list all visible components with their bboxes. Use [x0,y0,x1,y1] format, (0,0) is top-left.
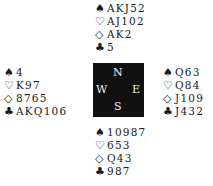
heart-icon: ♡ [95,15,107,28]
club-icon: ♣ [95,41,107,54]
north-spades: AKJ52 [107,2,146,15]
east-hearts: Q84 [175,79,201,92]
south-hand: ♠10987 ♡653 ◇Q43 ♣987 [95,126,146,178]
heart-icon: ♡ [163,79,175,92]
north-hand: ♠AKJ52 ♡AJ102 ◇AK2 ♣5 [95,2,146,54]
heart-icon: ♡ [95,139,107,152]
east-spades-row: ♠Q63 [163,66,204,79]
east-diamonds-row: ◇J109 [163,92,204,105]
club-icon: ♣ [163,105,175,118]
west-hand: ♠4 ♡K97 ◇8765 ♣AKQ106 [4,66,67,118]
east-spades: Q63 [175,66,201,79]
south-diamonds-row: ◇Q43 [95,152,146,165]
south-hearts: 653 [107,139,131,152]
south-diamonds: Q43 [107,152,133,165]
west-diamonds-row: ◇8765 [4,92,67,105]
spade-icon: ♠ [95,126,107,139]
north-hearts: AJ102 [107,15,145,28]
spade-icon: ♠ [163,66,175,79]
compass-west-label: W [96,83,107,96]
heart-icon: ♡ [4,79,16,92]
south-clubs-row: ♣987 [95,165,146,178]
east-hearts-row: ♡Q84 [163,79,204,92]
diamond-icon: ◇ [95,28,107,41]
diamond-icon: ◇ [4,92,16,105]
west-spades: 4 [16,66,24,79]
north-spades-row: ♠AKJ52 [95,2,146,15]
south-clubs: 987 [107,165,131,178]
north-hearts-row: ♡AJ102 [95,15,146,28]
compass-north-label: N [113,66,123,79]
north-clubs: 5 [107,41,115,54]
west-hearts: K97 [16,79,41,92]
north-diamonds-row: ◇AK2 [95,28,146,41]
east-clubs: J432 [175,105,204,118]
south-spades-row: ♠10987 [95,126,146,139]
compass-box: N W E S [93,63,144,117]
east-diamonds: J109 [175,92,204,105]
west-clubs-row: ♣AKQ106 [4,105,67,118]
diamond-icon: ◇ [95,152,107,165]
club-icon: ♣ [4,105,16,118]
east-clubs-row: ♣J432 [163,105,204,118]
spade-icon: ♠ [95,2,107,15]
south-hearts-row: ♡653 [95,139,146,152]
compass-south-label: S [114,100,122,113]
compass-east-label: E [132,83,140,96]
west-spades-row: ♠4 [4,66,67,79]
club-icon: ♣ [95,165,107,178]
spade-icon: ♠ [4,66,16,79]
west-clubs: AKQ106 [16,105,67,118]
west-hearts-row: ♡K97 [4,79,67,92]
north-clubs-row: ♣5 [95,41,146,54]
east-hand: ♠Q63 ♡Q84 ◇J109 ♣J432 [163,66,204,118]
west-diamonds: 8765 [16,92,48,105]
north-diamonds: AK2 [107,28,133,41]
south-spades: 10987 [107,126,146,139]
diamond-icon: ◇ [163,92,175,105]
